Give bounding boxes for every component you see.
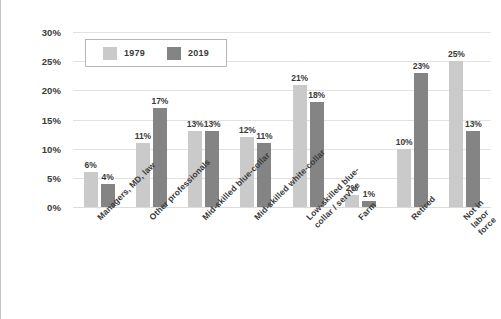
bar-group: 25%13%	[439, 32, 491, 207]
y-axis-tick-label: 30%	[42, 27, 61, 38]
y-axis-tick-label: 20%	[42, 85, 61, 96]
legend-item-1979[interactable]: 1979	[103, 47, 145, 60]
legend-label: 2019	[188, 48, 209, 58]
bar-1979[interactable]	[449, 61, 463, 207]
y-axis-tick-label: 15%	[42, 114, 61, 125]
bar-value-label: 12%	[239, 125, 256, 135]
bar-value-label: 6%	[85, 160, 97, 170]
x-axis: Managers, MD, lawOther professionalsMid-…	[1, 207, 501, 319]
bar-value-label: 1%	[363, 189, 375, 199]
bar-1979[interactable]	[84, 172, 98, 207]
bar-column: 11%	[257, 32, 271, 207]
bar-2019[interactable]	[414, 73, 428, 207]
bar-column: 10%	[397, 32, 411, 207]
bar-value-label: 4%	[102, 172, 114, 182]
legend-item-2019[interactable]: 2019	[167, 47, 209, 60]
bar-value-label: 18%	[308, 90, 325, 100]
y-axis-tick-label: 10%	[42, 143, 61, 154]
bar-value-label: 13%	[204, 119, 221, 129]
bar-value-label: 10%	[396, 137, 413, 147]
legend-swatch-2019	[167, 47, 181, 60]
bar-2019[interactable]	[153, 108, 167, 207]
y-axis-tick-label: 25%	[42, 56, 61, 67]
bar-value-label: 23%	[413, 61, 430, 71]
y-axis-tick-label: 5%	[47, 172, 61, 183]
legend-label: 1979	[124, 48, 145, 58]
bar-value-label: 17%	[152, 96, 169, 106]
bar-value-label: 25%	[448, 49, 465, 59]
bar-value-label: 13%	[187, 119, 204, 129]
bar-1979[interactable]	[293, 85, 307, 208]
bar-1979[interactable]	[397, 149, 411, 207]
bar-value-label: 13%	[465, 119, 482, 129]
bar-value-label: 11%	[135, 131, 151, 141]
bar-column: 13%	[466, 32, 480, 207]
bar-value-label: 11%	[256, 131, 272, 141]
bar-value-label: 21%	[291, 73, 308, 83]
bar-2019[interactable]	[466, 131, 480, 207]
bar-group: 10%23%	[387, 32, 439, 207]
chart-frame: 0%5%10%15%20%25%30% 6%4%11%17%13%13%12%1…	[0, 0, 501, 319]
bar-column: 25%	[449, 32, 463, 207]
bar-column: 23%	[414, 32, 428, 207]
bar-column: 18%	[310, 32, 324, 207]
chart-legend: 19792019	[85, 39, 227, 67]
legend-swatch-1979	[103, 47, 117, 60]
